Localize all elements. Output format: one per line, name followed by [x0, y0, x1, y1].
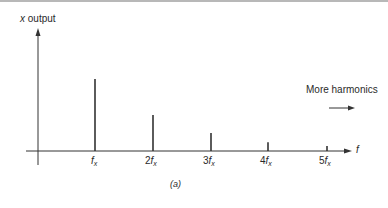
x-tick-label: 3fx — [203, 155, 215, 167]
x-tick-label: 2fx — [145, 155, 157, 167]
figure-caption: (a) — [170, 179, 181, 189]
x-tick-label: 5fx — [319, 155, 331, 167]
arrow-right-icon — [348, 106, 355, 111]
more-harmonics-annotation: More harmonics — [306, 84, 378, 95]
x-axis-label: f — [356, 144, 359, 155]
x-tick-label: fx — [91, 155, 97, 167]
x-tick-label: 4fx — [260, 155, 272, 167]
y-axis-arrow-icon — [36, 28, 41, 36]
harmonic-spikes — [95, 79, 327, 151]
x-axis-arrow-icon — [344, 149, 352, 154]
spectrum-plot — [0, 0, 388, 208]
y-axis-label: x output — [20, 13, 56, 24]
